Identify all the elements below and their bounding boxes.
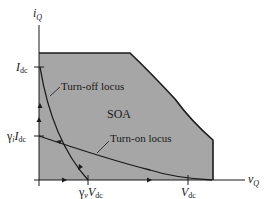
idc-label: Idc <box>15 60 28 75</box>
y-axis-label: iQ <box>33 6 42 22</box>
soa-label: SOA <box>107 107 131 121</box>
turn-on-label: Turn-on locus <box>110 132 172 144</box>
vdc-label: Vdc <box>181 185 196 199</box>
soa-diagram: iQ vQ Idc γiIdc γvVdc Vdc Turn-off locus… <box>0 0 275 199</box>
turn-off-label: Turn-off locus <box>61 80 124 92</box>
gamma-v-vdc-label: γvVdc <box>78 185 103 199</box>
gamma-i-idc-label: γiIdc <box>6 129 27 144</box>
x-axis-label: vQ <box>248 172 259 188</box>
